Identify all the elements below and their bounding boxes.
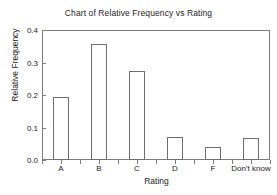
plot-area [42, 30, 270, 160]
x-tick-label: A [58, 164, 63, 173]
y-tick-mark [42, 30, 46, 31]
chart-title: Chart of Relative Frequency vs Rating [0, 8, 277, 18]
x-tick-label: C [134, 164, 140, 173]
x-tick-mark [118, 160, 119, 164]
bar [53, 97, 69, 160]
bar [205, 147, 221, 160]
x-axis-label: Rating [36, 176, 277, 186]
x-tick-label: F [211, 164, 216, 173]
x-tick-mark [42, 160, 43, 164]
bar [243, 138, 259, 160]
y-tick-label: 0.1 [8, 123, 38, 132]
y-tick-label: 0.2 [8, 91, 38, 100]
y-tick-label: 0.3 [8, 58, 38, 67]
y-tick-mark [42, 63, 46, 64]
x-tick-label: D [172, 164, 178, 173]
y-tick-label: 0.4 [8, 26, 38, 35]
x-tick-label: Don't know [231, 164, 270, 173]
bar [129, 71, 145, 160]
relative-frequency-bar-chart: Chart of Relative Frequency vs Rating Re… [0, 0, 277, 195]
x-tick-label: B [96, 164, 101, 173]
y-tick-mark [42, 95, 46, 96]
bar [167, 137, 183, 160]
x-tick-mark [80, 160, 81, 164]
y-tick-mark [42, 128, 46, 129]
y-tick-label: 0.0 [8, 156, 38, 165]
x-tick-mark [156, 160, 157, 164]
bar [91, 44, 107, 160]
x-tick-mark [194, 160, 195, 164]
